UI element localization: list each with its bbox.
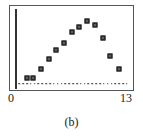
data-point — [54, 47, 59, 52]
baseline-point — [91, 83, 93, 85]
baseline-point — [61, 83, 63, 85]
plot-area — [10, 6, 133, 90]
x-axis-tick-label-max: 13 — [120, 92, 132, 104]
baseline-point — [34, 83, 36, 85]
baseline-point — [103, 83, 105, 85]
baseline-point — [84, 83, 86, 85]
baseline-point — [18, 83, 20, 85]
baseline-point — [65, 83, 67, 85]
baseline-point — [68, 83, 70, 85]
x-axis-tick-label-min: 0 — [8, 92, 14, 104]
baseline-point — [72, 83, 74, 85]
baseline-point — [22, 83, 24, 85]
data-point — [100, 36, 105, 41]
data-point — [24, 75, 29, 80]
data-point — [108, 53, 113, 58]
baseline-point — [26, 83, 28, 85]
baseline-point — [45, 83, 47, 85]
data-point — [62, 40, 67, 45]
baseline-point — [126, 83, 128, 85]
baseline-point — [76, 83, 78, 85]
data-point — [69, 30, 74, 35]
plot-frame — [9, 5, 134, 91]
baseline-point — [42, 83, 44, 85]
data-point — [77, 24, 82, 29]
baseline-point — [49, 83, 51, 85]
baseline-point — [38, 83, 40, 85]
baseline-point — [107, 83, 109, 85]
baseline-point — [95, 83, 97, 85]
figure-caption: (b) — [0, 115, 143, 130]
data-point — [46, 56, 51, 61]
data-point — [92, 23, 97, 28]
data-point — [85, 18, 90, 23]
data-point — [31, 75, 36, 80]
baseline-point — [53, 83, 55, 85]
baseline-point — [57, 83, 59, 85]
figure-panel-b: 0 13 (b) — [0, 0, 143, 137]
baseline-point — [122, 83, 124, 85]
baseline-point — [115, 83, 117, 85]
data-point — [39, 66, 44, 71]
baseline-point — [99, 83, 101, 85]
baseline-point — [118, 83, 120, 85]
baseline-point — [111, 83, 113, 85]
baseline-point — [30, 83, 32, 85]
baseline-point — [88, 83, 90, 85]
data-point — [116, 66, 121, 71]
baseline-point — [80, 83, 82, 85]
